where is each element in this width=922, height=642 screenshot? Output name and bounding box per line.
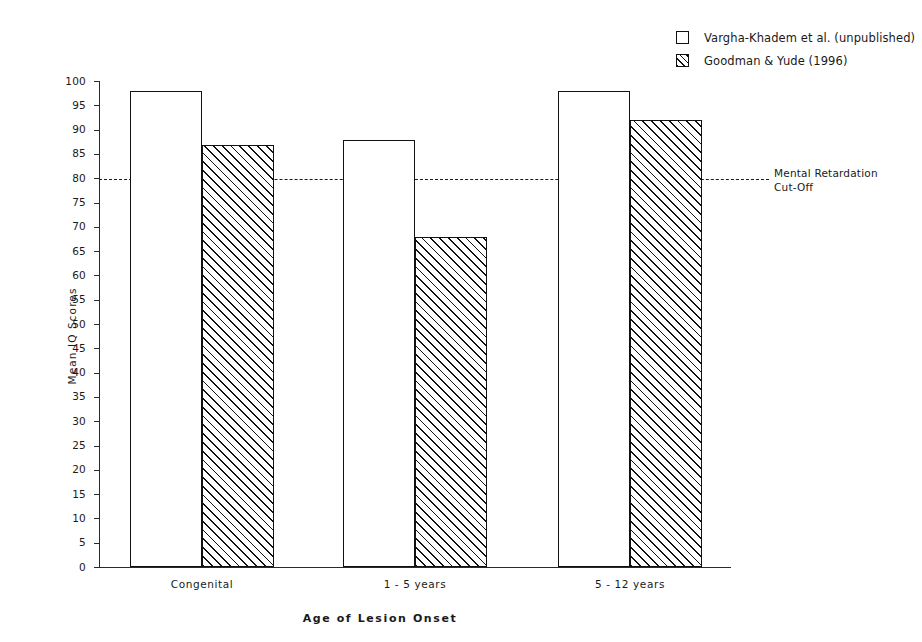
y-tick-label: 55 [52,293,86,305]
y-tick-mark [94,494,100,495]
y-tick-label: 90 [52,123,86,135]
y-tick-mark [94,518,100,519]
bar [130,91,202,567]
y-tick-label: 80 [52,172,86,184]
y-tick-label: 25 [52,439,86,451]
y-tick-label: 30 [52,415,86,427]
y-tick-mark [94,373,100,374]
y-tick-label: 65 [52,245,86,257]
y-tick-label: 60 [52,269,86,281]
y-tick-mark [94,251,100,252]
y-tick-mark [94,130,100,131]
y-tick-mark [94,324,100,325]
y-tick-mark [94,300,100,301]
y-tick-label: 10 [52,512,86,524]
cutoff-annotation-line1: Mental Retardation [774,166,878,180]
y-tick-mark [94,397,100,398]
y-tick-label: 45 [52,342,86,354]
y-tick-mark [94,154,100,155]
y-tick-label: 40 [52,366,86,378]
cutoff-annotation: Mental Retardation Cut-Off [774,166,878,194]
y-tick-label: 50 [52,318,86,330]
y-tick-mark [94,543,100,544]
x-axis-title: Age of Lesion Onset [0,612,760,625]
y-tick-label: 75 [52,196,86,208]
bar [558,91,630,567]
x-tick-label: 5 - 12 years [518,578,742,590]
y-tick-label: 35 [52,390,86,402]
y-tick-mark [94,227,100,228]
x-tick-label: Congenital [90,578,314,590]
y-tick-mark [94,421,100,422]
y-tick-label: 100 [52,75,86,87]
y-tick-label: 5 [52,536,86,548]
y-tick-mark [94,105,100,106]
cutoff-annotation-line2: Cut-Off [774,180,878,194]
y-tick-mark [94,81,100,82]
y-tick-label: 20 [52,463,86,475]
y-tick-label: 15 [52,488,86,500]
bar [630,120,702,567]
y-tick-mark [94,275,100,276]
y-tick-label: 85 [52,147,86,159]
y-tick-label: 95 [52,99,86,111]
plot-area: Mean IQ Scores Age of Lesion Onset 05101… [0,0,922,642]
y-tick-mark [94,446,100,447]
y-tick-label: 0 [52,561,86,573]
y-tick-label: 70 [52,220,86,232]
y-tick-mark [94,470,100,471]
x-tick-label: 1 - 5 years [303,578,527,590]
y-tick-mark [94,567,100,568]
bar [415,237,487,567]
chart-page: Vargha-Khadem et al. (unpublished) Goodm… [0,0,922,642]
bar [202,145,274,568]
y-tick-mark [94,203,100,204]
y-tick-mark [94,348,100,349]
bar [343,140,415,568]
